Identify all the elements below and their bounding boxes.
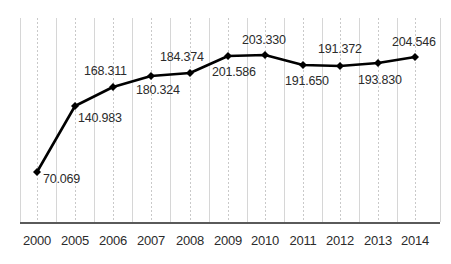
data-point-marker [224,52,232,60]
data-point-label: 180.324 [136,84,180,97]
data-point-marker [299,61,307,69]
data-point-marker [411,53,419,61]
data-point-label: 203.330 [242,34,286,47]
data-point-marker [186,69,194,77]
data-point-label: 204.546 [392,36,436,49]
data-point-label: 70.069 [43,173,80,186]
plot-area: 70.069140.983168.311180.324184.374201.58… [0,0,451,264]
data-point-marker [336,62,344,70]
data-point-label: 168.311 [84,65,127,78]
data-point-label: 191.372 [318,43,362,56]
data-point-marker [261,51,269,59]
x-axis-tick-label: 2007 [129,234,173,247]
data-point-label: 191.650 [285,75,329,88]
x-axis-tick-label: 2014 [393,234,437,247]
data-point-label: 201.586 [212,66,256,79]
data-point-marker [147,72,155,80]
data-point-label: 184.374 [160,51,204,64]
data-point-label: 140.983 [78,112,122,125]
data-point-marker [374,59,382,67]
series-line-group [0,0,451,264]
line-chart: 70.069140.983168.311180.324184.374201.58… [0,0,451,264]
data-point-label: 193.830 [358,74,402,87]
